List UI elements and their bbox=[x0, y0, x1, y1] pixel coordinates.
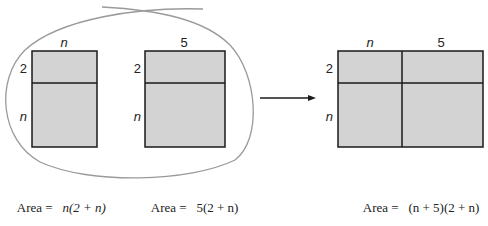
left-area-expr: n(2 + n) bbox=[62, 200, 105, 215]
combined-top-left-label: n bbox=[366, 35, 373, 50]
combined-side-bottom-label: n bbox=[326, 109, 333, 124]
left-area-caption: Area = n(2 + n) bbox=[11, 184, 106, 216]
equation-plus: + bbox=[190, 224, 197, 226]
combined-rectangle: n 5 2 n bbox=[326, 35, 483, 147]
combined-side-top-label: 2 bbox=[326, 61, 333, 76]
left-area-prefix: Area = bbox=[17, 200, 53, 215]
left-top-label: n bbox=[60, 35, 67, 50]
left-rectangle: n 2 n bbox=[20, 35, 97, 147]
equation-result: (n + 5)(2 + n) bbox=[276, 224, 347, 226]
right-area-caption: Area = (n + 5)(2 + n) bbox=[357, 184, 479, 216]
middle-side-top-label: 2 bbox=[134, 61, 141, 76]
right-area-expr: (n + 5)(2 + n) bbox=[408, 200, 479, 215]
equation-term2: 5(2 + n) bbox=[207, 224, 249, 226]
middle-top-label: 5 bbox=[180, 35, 187, 50]
right-area-prefix: Area = bbox=[363, 200, 399, 215]
left-side-top-label: 2 bbox=[20, 61, 27, 76]
sum-equation: n(2 + n) + 5(2 + n) = (n + 5)(2 + n) bbox=[132, 208, 347, 226]
combined-top-right-label: 5 bbox=[437, 35, 444, 50]
left-side-bottom-label: n bbox=[20, 109, 27, 124]
arrow-icon bbox=[260, 95, 316, 101]
middle-side-bottom-label: n bbox=[134, 109, 141, 124]
equation-term1: n(2 + n) bbox=[139, 224, 181, 226]
middle-rectangle: 5 2 n bbox=[134, 35, 225, 147]
